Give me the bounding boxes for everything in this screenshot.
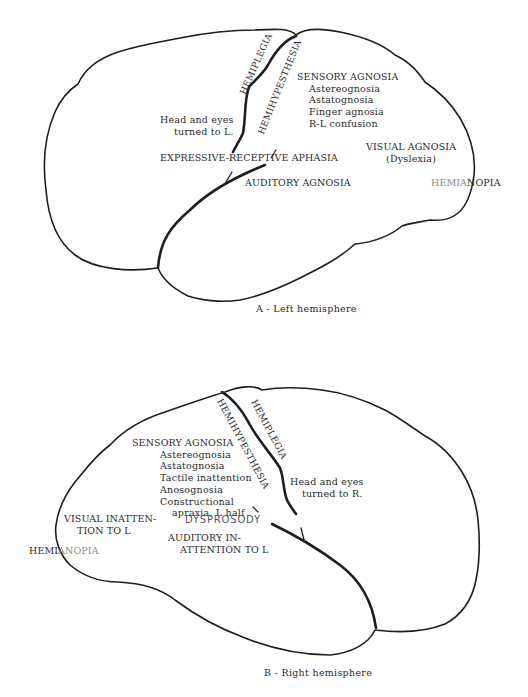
label-hemianopia-b: HEMIANOPIA bbox=[29, 545, 99, 557]
label-aphasia-a: EXPRESSIVE-RECEPTIVE APHASIA bbox=[160, 152, 338, 164]
label-sensory-agnosia-a: SENSORY AGNOSIA Astereognosia Astatognos… bbox=[297, 71, 398, 130]
left-hemisphere-drawing bbox=[44, 29, 474, 301]
right-sylvian-fissure bbox=[272, 524, 376, 628]
label-head-eyes-a: Head and eyes turned to L. bbox=[160, 114, 234, 137]
brain-outlines bbox=[0, 0, 528, 697]
label-dysprosody-b: DYSPROSODY bbox=[185, 514, 261, 526]
caption-right-hemisphere: B - Right hemisphere bbox=[264, 667, 372, 678]
label-visual-inattention-b: VISUAL INATTEN- TION TO L bbox=[64, 513, 156, 536]
caption-left-hemisphere: A - Left hemisphere bbox=[256, 303, 357, 314]
label-head-eyes-b: Head and eyes turned to R. bbox=[290, 476, 364, 499]
label-visual-agnosia-a: VISUAL AGNOSIA (Dyslexia) bbox=[366, 141, 456, 164]
left-hemisphere-outline bbox=[44, 29, 474, 301]
label-hemianopia-a: HEMIANOPIA bbox=[431, 177, 501, 189]
label-auditory-agnosia-a: AUDITORY AGNOSIA bbox=[245, 177, 351, 189]
label-sensory-agnosia-b: SENSORY AGNOSIA Astereognosia Astatognos… bbox=[132, 437, 252, 519]
label-auditory-inattention-b: AUDITORY IN- ATTENTION TO L bbox=[168, 532, 269, 555]
